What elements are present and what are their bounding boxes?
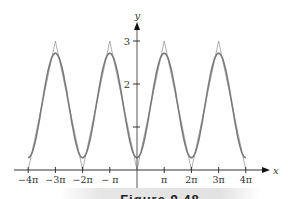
x-tick-label: −3π	[45, 174, 65, 185]
x-tick-label: 4π	[240, 174, 252, 185]
y-tick-label: 3	[124, 36, 130, 47]
y-ticks: 23	[124, 36, 140, 128]
x-tick-label: 2π	[185, 174, 197, 185]
x-tick-label: − π	[101, 174, 118, 185]
x-axis-label: x	[273, 165, 279, 176]
figure-caption: Figure 9.48	[60, 192, 260, 199]
y-axis-arrow-icon	[134, 22, 140, 30]
x-tick-label: π	[161, 174, 167, 185]
chart: −4π−3π−2π− ππ2π3π4π 23 x y	[0, 0, 288, 199]
figure-caption-band: Figure 9.48	[60, 188, 260, 199]
y-tick-label: 2	[124, 79, 130, 90]
x-tick-label: −2π	[72, 174, 92, 185]
x-tick-label: 3π	[212, 174, 224, 185]
x-tick-label: −4π	[18, 174, 38, 185]
y-axis-label: y	[134, 10, 141, 21]
x-axis-arrow-icon	[262, 167, 270, 173]
